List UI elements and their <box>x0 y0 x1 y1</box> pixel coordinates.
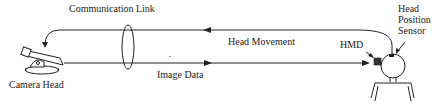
diagram-canvas <box>0 0 444 105</box>
communication-link-label: Communication Link <box>69 3 155 14</box>
head-position-sensor-label-line3: Sensor <box>398 25 425 36</box>
camera-head-label: Camera Head <box>9 79 64 90</box>
hmd-device <box>374 58 381 65</box>
hmd-label: HMD <box>340 39 363 50</box>
head-position-sensor-device <box>389 54 394 57</box>
image-data-arrow-right <box>204 60 212 66</box>
head-position-sensor-label-line1: Head <box>398 3 419 14</box>
head-movement-label: Head Movement <box>228 36 295 47</box>
image-data-label: Image Data <box>157 69 203 80</box>
head-movement-arrow-camera <box>42 42 48 48</box>
camera-head-icon <box>21 47 63 74</box>
communication-link-ellipse <box>122 25 134 69</box>
head-position-sensor-label-line2: Position <box>398 14 431 25</box>
image-data-arrow-hmd <box>362 60 370 66</box>
head-movement-arrow-left <box>203 27 211 33</box>
